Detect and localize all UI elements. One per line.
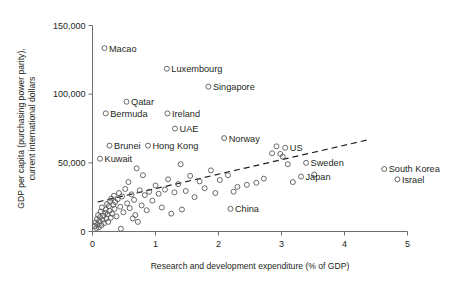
point-label: Israel	[402, 175, 424, 185]
data-point	[213, 191, 218, 196]
x-axis-title: Research and development expenditure (% …	[151, 261, 350, 271]
data-point	[192, 195, 197, 200]
data-point	[114, 214, 119, 219]
data-point-labeled	[98, 156, 103, 161]
point-label: Hong Kong	[152, 141, 198, 151]
scatter-chart-figure: 050,000100,000150,000012345 MacaoLuxembo…	[0, 0, 454, 282]
y-axis-title-line1: GDP per capita (purchasing power parity)…	[16, 48, 26, 208]
data-point	[290, 180, 295, 185]
y-tick-label: 100,000	[53, 89, 86, 99]
data-point	[179, 207, 184, 212]
point-label: Japan	[306, 172, 331, 182]
data-point	[130, 216, 135, 221]
data-point	[153, 183, 158, 188]
data-point	[261, 176, 266, 181]
point-labels-group: MacaoLuxembourgSingaporeQatarBermudaIrel…	[105, 44, 441, 215]
data-point	[172, 190, 177, 195]
data-point	[188, 173, 193, 178]
data-point	[178, 162, 183, 167]
y-tick-label: 50,000	[58, 158, 86, 168]
data-point-labeled	[382, 167, 387, 172]
data-point	[123, 186, 128, 191]
data-point	[162, 187, 167, 192]
data-point	[135, 219, 140, 224]
data-point	[144, 208, 149, 213]
data-point	[231, 189, 236, 194]
point-label: Sweden	[311, 158, 344, 168]
data-point-labeled	[222, 136, 227, 141]
data-point-labeled	[228, 206, 233, 211]
data-point	[156, 191, 161, 196]
data-point	[118, 204, 123, 209]
data-point	[132, 197, 137, 202]
data-point	[140, 173, 145, 178]
data-point	[125, 201, 130, 206]
data-point	[166, 177, 171, 182]
point-label: Ireland	[172, 109, 200, 119]
data-point	[254, 180, 259, 185]
point-label: US	[290, 143, 303, 153]
point-label: Singapore	[213, 82, 255, 92]
y-tick-label: 0	[80, 227, 85, 237]
data-point	[197, 179, 202, 184]
data-point-labeled	[299, 174, 304, 179]
point-label: China	[235, 204, 260, 214]
point-label: Kuwait	[105, 154, 133, 164]
point-label: Macao	[109, 44, 137, 54]
point-label: Norway	[229, 134, 261, 144]
point-label: Luxembourg	[171, 64, 222, 74]
data-point	[134, 166, 139, 171]
data-point	[202, 186, 207, 191]
data-point	[139, 203, 144, 208]
data-point-labeled	[145, 143, 150, 148]
data-point	[235, 184, 240, 189]
data-point	[133, 213, 138, 218]
data-point-labeled	[124, 99, 129, 104]
data-point-labeled	[395, 177, 400, 182]
x-tick-label: 5	[405, 239, 410, 249]
data-point	[169, 211, 174, 216]
data-point	[285, 162, 290, 167]
data-point	[127, 206, 132, 211]
data-point-labeled	[107, 143, 112, 148]
chart-canvas: 050,000100,000150,000012345 MacaoLuxembo…	[0, 0, 454, 282]
data-point-labeled	[164, 66, 169, 71]
data-point-labeled	[304, 160, 309, 165]
x-tick-label: 4	[342, 239, 347, 249]
data-point	[150, 198, 155, 203]
data-point	[270, 151, 275, 156]
x-tick-label: 3	[279, 239, 284, 249]
y-axis-title-line2: current international dollars	[27, 77, 37, 181]
x-tick-label: 2	[216, 239, 221, 249]
data-point-labeled	[206, 84, 211, 89]
point-label: Brunei	[114, 141, 141, 151]
data-point	[274, 144, 279, 149]
data-point	[121, 210, 126, 215]
x-tick-label: 0	[90, 239, 95, 249]
data-point-labeled	[283, 145, 288, 150]
data-point	[208, 168, 213, 173]
point-label: Qatar	[131, 97, 154, 107]
y-tick-label: 150,000	[53, 21, 86, 31]
point-label: South Korea	[389, 164, 441, 174]
data-point	[244, 182, 249, 187]
data-point	[159, 205, 164, 210]
data-point-labeled	[165, 111, 170, 116]
data-point	[183, 188, 188, 193]
data-point	[225, 173, 230, 178]
data-point-labeled	[103, 111, 108, 116]
data-point	[142, 193, 147, 198]
point-label: Bermuda	[110, 109, 148, 119]
data-point-labeled	[102, 46, 107, 51]
data-point	[126, 180, 131, 185]
data-point	[118, 226, 123, 231]
data-point	[217, 178, 222, 183]
point-label: UAE	[180, 124, 199, 134]
x-tick-label: 1	[153, 239, 158, 249]
data-point-labeled	[173, 126, 178, 131]
